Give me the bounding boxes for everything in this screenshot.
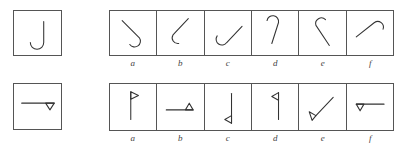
hook-option-a[interactable] — [110, 11, 157, 55]
flag-option-b[interactable] — [157, 84, 204, 130]
hook-option-labels: a b c d e f — [109, 58, 394, 68]
option-label: f — [347, 133, 395, 143]
hook-c-icon — [205, 11, 251, 55]
option-label: c — [204, 58, 252, 68]
hook-option-e[interactable] — [299, 11, 346, 55]
flag-d-icon — [252, 84, 298, 130]
hook-option-b[interactable] — [157, 11, 204, 55]
hook-b-icon — [157, 11, 203, 55]
option-label: a — [109, 133, 157, 143]
option-label: e — [299, 58, 347, 68]
flag-option-c[interactable] — [205, 84, 252, 130]
hook-option-f[interactable] — [347, 11, 393, 55]
flag-options-strip — [109, 83, 394, 131]
hook-j-icon — [14, 11, 61, 55]
hook-option-c[interactable] — [205, 11, 252, 55]
hook-f-icon — [347, 11, 393, 55]
flag-option-e[interactable] — [299, 84, 346, 130]
hook-option-d[interactable] — [252, 11, 299, 55]
option-label: b — [157, 133, 205, 143]
flag-f-icon — [347, 84, 393, 130]
hook-d-icon — [252, 11, 298, 55]
hook-e-icon — [299, 11, 345, 55]
option-label: d — [252, 133, 300, 143]
option-label: e — [299, 133, 347, 143]
flag-e-icon — [299, 84, 345, 130]
reference-flag-box — [13, 83, 62, 130]
flag-horizontal-icon — [14, 84, 61, 129]
flag-c-icon — [205, 84, 251, 130]
hook-options-strip — [109, 10, 394, 56]
hook-a-icon — [110, 11, 156, 55]
option-label: a — [109, 58, 157, 68]
flag-b-triangle-icon — [157, 84, 203, 130]
flag-option-f[interactable] — [347, 84, 393, 130]
option-label: b — [157, 58, 205, 68]
flag-option-labels: a b c d e f — [109, 133, 394, 143]
option-label: d — [252, 58, 300, 68]
flag-option-d[interactable] — [252, 84, 299, 130]
option-label: c — [204, 133, 252, 143]
flag-a-icon — [110, 84, 156, 130]
reference-hook-box — [13, 10, 62, 56]
flag-option-a[interactable] — [110, 84, 157, 130]
option-label: f — [347, 58, 395, 68]
